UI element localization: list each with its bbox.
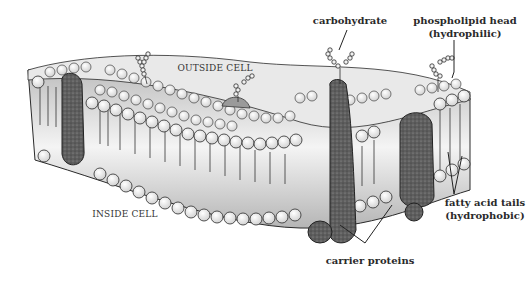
membrane-illustration: [0, 0, 530, 282]
inside-cell-label: INSIDE CELL: [80, 208, 170, 221]
carrier-protein-center-bottom: [308, 221, 332, 243]
outside-cell-label: OUTSIDE CELL: [165, 62, 265, 75]
left-channel-protein: [62, 73, 84, 165]
phospholipid-head-label: phospholipid head (hydrophilic): [410, 14, 520, 40]
phospholipid-head-label-line1: phospholipid head: [410, 14, 520, 27]
carrier-protein-right: [400, 113, 434, 208]
carrier-protein-right-bottom: [405, 203, 423, 221]
fatty-acid-tails-label-line2: (hydrophobic): [440, 209, 530, 222]
cell-membrane-diagram: OUTSIDE CELL INSIDE CELL carbohydrate ph…: [0, 0, 530, 282]
fatty-acid-tails-label-line1: fatty acid tails: [440, 196, 530, 209]
fatty-acid-tails-label: fatty acid tails (hydrophobic): [440, 196, 530, 222]
phospholipid-head-label-line2: (hydrophilic): [410, 27, 520, 40]
carrier-proteins-label: carrier proteins: [325, 254, 415, 267]
carbohydrate-label: carbohydrate: [310, 14, 390, 27]
